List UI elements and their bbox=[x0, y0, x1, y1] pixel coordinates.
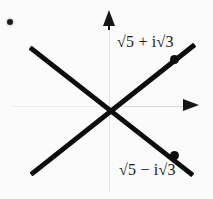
point-marker-lower bbox=[170, 151, 179, 160]
imaginary-axis-line bbox=[109, 14, 110, 191]
point-marker-upper bbox=[170, 55, 179, 64]
real-axis-line-right bbox=[112, 106, 190, 107]
point-label-upper: √5 + i√3 bbox=[117, 34, 174, 50]
point-label-lower: √5 − i√3 bbox=[119, 162, 176, 178]
complex-plane-figure: √5 + i√3 √5 − i√3 bbox=[0, 0, 213, 199]
real-axis-arrow-icon bbox=[183, 99, 199, 111]
imaginary-axis-arrow-icon bbox=[103, 10, 115, 26]
corner-speck-artifact bbox=[7, 19, 13, 25]
